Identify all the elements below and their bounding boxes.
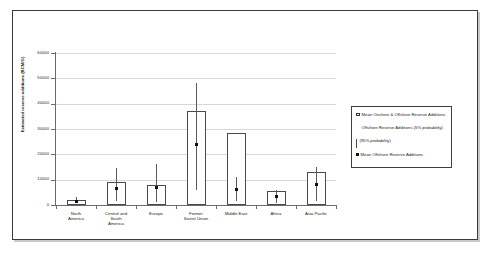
mean-marker	[275, 195, 278, 198]
legend-entry: (95% probability)	[356, 138, 451, 148]
y-axis-tick-label: 50000	[16, 76, 49, 80]
plot-area	[56, 53, 336, 205]
mean-marker	[235, 188, 238, 191]
mean-marker	[195, 143, 198, 146]
legend-swatch-vertical-bar-icon	[356, 139, 357, 148]
x-axis-tick	[96, 205, 97, 209]
legend-swatch-open-square-icon	[356, 113, 360, 117]
x-axis-tick	[136, 205, 137, 209]
x-axis-tick	[336, 205, 337, 209]
x-axis-tick	[56, 205, 57, 209]
x-axis-label: Asia Pacific	[296, 211, 336, 216]
y-axis-tick-label: 10000	[16, 177, 49, 181]
y-axis-tick-label: 40000	[16, 101, 49, 105]
y-axis-tick-label: 0	[16, 203, 49, 207]
legend-label: (95% probability)	[359, 138, 390, 143]
x-axis-label: Central andSouthAmerica	[96, 211, 136, 227]
legend-label: Mean Onshore & Offshore Reserve Addition…	[362, 112, 446, 117]
error-bar	[156, 164, 157, 201]
legend-swatch-none-icon	[356, 125, 360, 129]
x-axis-label: FormerSoviet Union	[176, 211, 216, 221]
error-bar	[116, 168, 117, 201]
x-axis-label: Middle East	[216, 211, 256, 216]
y-axis-tick-label: 60000	[16, 51, 49, 55]
legend-swatch-filled-square-icon	[356, 153, 359, 156]
mean-marker	[155, 186, 158, 189]
chart-figure: Estimated reserve additions (BCM/G) 0100…	[0, 0, 493, 255]
mean-marker	[315, 183, 318, 186]
legend-label: Mean Offshore Reserve Additions	[361, 152, 424, 157]
x-axis-label: Europe	[136, 211, 176, 216]
legend-entry: Offshore Reserve Additions (5% probabili…	[356, 125, 451, 130]
legend-entry: Mean Onshore & Offshore Reserve Addition…	[356, 112, 451, 117]
x-axis-label: Africa	[256, 211, 296, 216]
mean-marker	[75, 200, 78, 203]
mean-marker	[115, 187, 118, 190]
legend-label: Offshore Reserve Additions (5% probabili…	[362, 125, 443, 130]
x-axis-tick	[216, 205, 217, 209]
x-axis-tick	[296, 205, 297, 209]
y-axis-tick-label: 20000	[16, 152, 49, 156]
chart-legend: Mean Onshore & Offshore Reserve Addition…	[351, 106, 452, 168]
legend-entry: Mean Offshore Reserve Additions	[356, 152, 451, 157]
x-axis-tick	[176, 205, 177, 209]
error-bar	[196, 83, 197, 189]
y-axis-title: Estimated reserve additions (BCM/G)	[20, 40, 25, 150]
x-axis-line	[55, 205, 337, 206]
x-axis-label: NorthAmerica	[56, 211, 96, 221]
x-axis-tick	[256, 205, 257, 209]
y-axis-tick-label: 30000	[16, 127, 49, 131]
